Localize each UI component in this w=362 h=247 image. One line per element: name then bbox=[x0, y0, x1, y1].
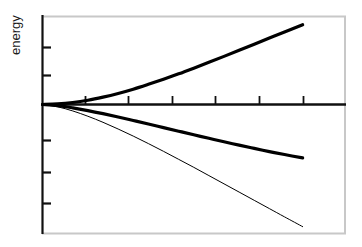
curve-middle-branch bbox=[43, 105, 303, 158]
curve-upper-branch bbox=[43, 25, 303, 105]
x-axis-ticks bbox=[86, 96, 304, 104]
y-axis-label: energy bbox=[8, 15, 23, 55]
curve-lower-branch bbox=[43, 105, 303, 227]
plot-frame bbox=[42, 16, 346, 234]
figure-canvas: energy bbox=[0, 0, 362, 247]
energy-plot: energy bbox=[0, 0, 362, 247]
curve-group bbox=[43, 25, 303, 227]
